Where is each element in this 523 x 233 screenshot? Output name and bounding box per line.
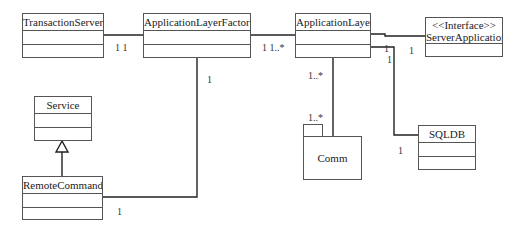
class-name: ApplicationLayerFactory <box>144 14 250 31</box>
operations-compartment <box>419 157 475 170</box>
operations-compartment <box>426 44 502 56</box>
generalization-arrowhead <box>56 141 68 152</box>
attributes-compartment <box>23 194 102 208</box>
operations-compartment <box>23 208 102 221</box>
class-sqldb[interactable]: SQLDB <box>418 125 476 170</box>
operations-compartment <box>144 45 250 58</box>
class-transaction-server[interactable]: TransactionServer <box>22 13 104 58</box>
operations-compartment <box>296 45 370 58</box>
multiplicity-alf-rc-top: 1 <box>207 74 212 85</box>
multiplicity-ts-alf: 1 1 <box>115 42 128 53</box>
multiplicity-al-comm-top: 1..* <box>308 70 323 81</box>
interface-server-application[interactable]: <<Interface>> ServerApplication <box>425 17 503 57</box>
uml-diagram-canvas: TransactionServer ApplicationLayerFactor… <box>0 0 523 233</box>
attributes-compartment <box>419 143 475 157</box>
multiplicity-al-sa-left: 1 <box>384 43 389 54</box>
class-name: TransactionServer <box>23 14 103 31</box>
multiplicity-al-sqldb-top: 1 <box>387 54 392 65</box>
class-name: SQLDB <box>419 126 475 143</box>
class-name: ServerApplication <box>426 31 502 43</box>
class-application-layer[interactable]: ApplicationLayer <box>295 13 371 58</box>
class-header: <<Interface>> ServerApplication <box>426 18 502 44</box>
class-service[interactable]: Service <box>34 96 92 141</box>
multiplicity-alf-al: 1 1..* <box>262 42 285 53</box>
multiplicity-comm-end: 1..* <box>308 112 323 123</box>
class-name: RemoteCommand <box>23 177 102 194</box>
attributes-compartment <box>35 114 91 128</box>
class-name: Service <box>35 97 91 114</box>
class-name: ApplicationLayer <box>296 14 370 31</box>
attributes-compartment <box>144 31 250 45</box>
class-remote-command[interactable]: RemoteCommand <box>22 176 103 220</box>
package-name: Comm <box>318 152 348 164</box>
multiplicity-sqldb-end: 1 <box>398 145 403 156</box>
operations-compartment <box>23 45 103 58</box>
attributes-compartment <box>296 31 370 45</box>
class-application-layer-factory[interactable]: ApplicationLayerFactory <box>143 13 251 58</box>
package-comm[interactable]: Comm <box>303 136 362 180</box>
multiplicity-al-sa-right: 1 <box>409 45 414 56</box>
stereotype-label: <<Interface>> <box>426 19 502 31</box>
attributes-compartment <box>23 31 103 45</box>
multiplicity-rc-end: 1 <box>117 206 122 217</box>
operations-compartment <box>35 128 91 141</box>
